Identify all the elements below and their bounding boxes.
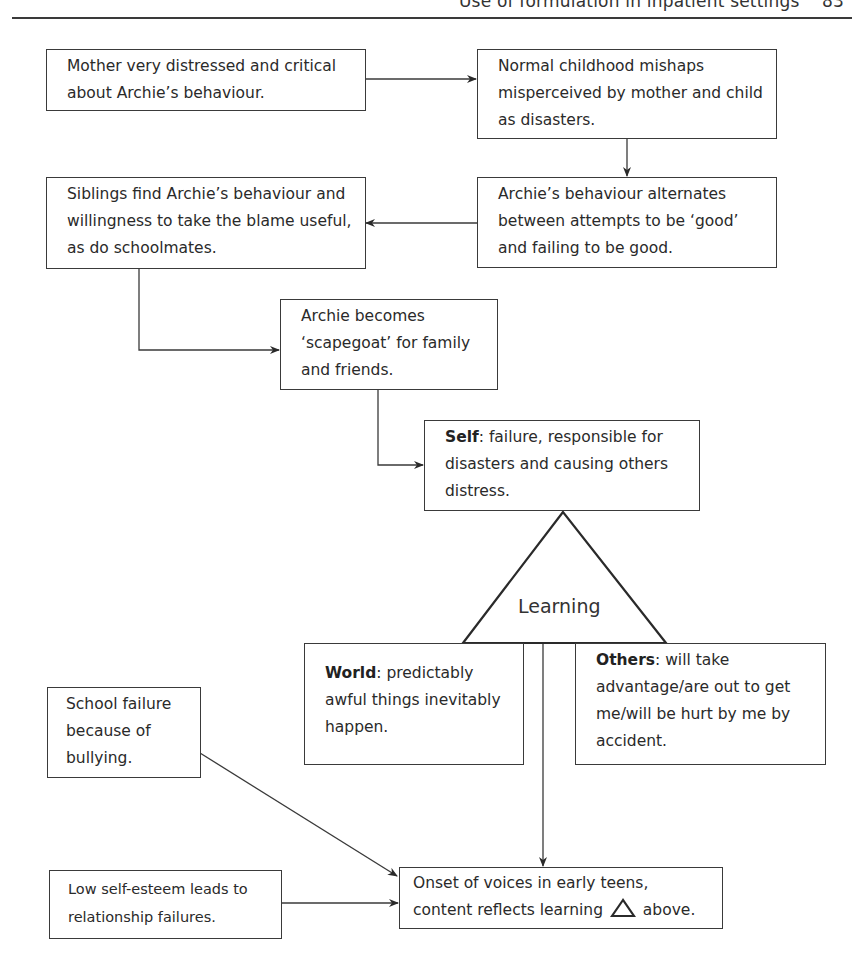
box-others: Others: will take advantage/are out to g…	[575, 643, 826, 765]
box-self: Self: failure, responsible for disasters…	[424, 420, 700, 511]
triangle-label: Learning	[518, 595, 601, 617]
learning-triangle	[463, 512, 666, 643]
box-world: World: predictably awful things inevitab…	[304, 643, 524, 765]
box-behaviour-alternates: Archie’s behaviour alternates between at…	[477, 177, 777, 268]
box-onset-voices: Onset of voices in early teens, content …	[399, 867, 723, 929]
box-text: Normal childhood mishaps misperceived by…	[498, 57, 763, 129]
box-low-self-esteem: Low self-esteem leads to relationship fa…	[49, 870, 282, 939]
box-text: Archie becomes ‘scapegoat’ for family an…	[301, 307, 470, 379]
box-text: School failure because of bullying.	[66, 695, 171, 767]
small-triangle-icon	[610, 898, 636, 918]
box-text: Siblings find Archie’s behaviour and wil…	[67, 185, 351, 257]
world-label: World	[325, 664, 376, 682]
self-label: Self	[445, 428, 479, 446]
box-text: Mother very distressed and critical abou…	[67, 57, 336, 102]
box-text: Archie’s behaviour alternates between at…	[498, 185, 738, 257]
box-scapegoat: Archie becomes ‘scapegoat’ for family an…	[280, 299, 498, 390]
arrow-scapegoat-to-self	[378, 390, 423, 465]
box-mother-distressed: Mother very distressed and critical abou…	[46, 49, 366, 111]
arrow-school-to-onset	[200, 753, 397, 876]
box-text: Low self-esteem leads to relationship fa…	[68, 881, 248, 925]
box-school-failure: School failure because of bullying.	[47, 687, 201, 778]
box-text: : failure, responsible for disasters and…	[445, 428, 668, 500]
others-label: Others	[596, 651, 655, 669]
box-normal-mishaps: Normal childhood mishaps misperceived by…	[477, 49, 777, 139]
box-text-after: above.	[643, 901, 695, 919]
box-siblings: Siblings find Archie’s behaviour and wil…	[46, 177, 366, 269]
arrow-siblings-to-scapegoat	[139, 269, 279, 350]
